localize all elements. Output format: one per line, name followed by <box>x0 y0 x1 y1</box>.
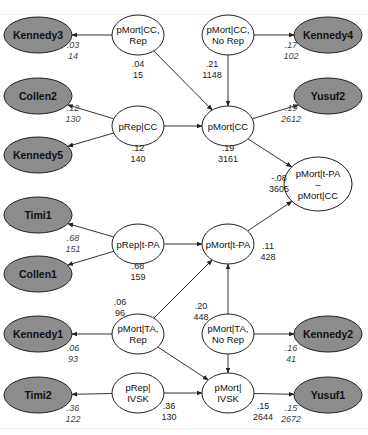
node-prep_tpa[interactable]: pRep|t-PA <box>112 224 164 264</box>
node-pmort_ta_norep[interactable]: pMort|TA,No Rep <box>202 314 254 354</box>
estimate-label-pmort_cc_rep: .0415 <box>132 59 145 80</box>
sample-size-text: 151 <box>65 244 80 254</box>
edge-layer <box>68 35 299 394</box>
node-label: Yusuf2 <box>311 90 346 102</box>
node-label: IVSK <box>127 393 149 404</box>
node-label: pRep|CC <box>119 121 158 132</box>
node-label: pMort|TA, <box>208 323 249 334</box>
sample-size-text: 448 <box>193 312 208 322</box>
sample-size-text: 3605 <box>269 184 289 194</box>
node-label: Kennedy4 <box>303 29 353 41</box>
value-text: .19 <box>285 103 298 113</box>
node-label: IVSK <box>217 393 239 404</box>
node-kennedy3[interactable]: Kennedy3 <box>4 17 72 53</box>
value-label-layer: .0415.211148.12140.193161-.083605.68159.… <box>65 40 301 424</box>
node-kennedy5[interactable]: Kennedy5 <box>4 137 72 173</box>
node-label: Rep <box>129 334 146 345</box>
node-label: Kennedy3 <box>13 29 63 41</box>
value-text: .16 <box>285 343 298 353</box>
node-label: pMort|t-PA <box>296 168 341 179</box>
node-label: Collen1 <box>19 268 57 280</box>
sample-size-text: 14 <box>68 51 78 61</box>
edge-pmort_tpa-to-pmort_diff <box>248 201 292 231</box>
sample-size-text: 93 <box>68 354 78 364</box>
node-label: pRep| <box>125 382 150 393</box>
estimate-label-pmort_ta_rep: .0696 <box>114 297 127 318</box>
estimate-label-pmort_ta_norep: .20448 <box>193 301 208 322</box>
node-label: No Rep <box>212 35 244 46</box>
sample-size-text: 122 <box>65 414 80 424</box>
sample-size-text: 130 <box>65 114 80 124</box>
node-layer: Kennedy3pMort|CC,ReppMort|CC,No RepKenne… <box>4 15 362 413</box>
value-text: .12 <box>67 103 80 113</box>
node-pmort_cc[interactable]: pMort|CC <box>202 106 254 146</box>
node-pmort_ta_rep[interactable]: pMort|TA,Rep <box>112 314 164 354</box>
node-kennedy2[interactable]: Kennedy2 <box>294 316 362 352</box>
node-label: Kennedy2 <box>303 328 353 340</box>
observation-label-timi1: .68151 <box>65 233 80 254</box>
node-label: Timi2 <box>24 389 51 401</box>
observation-label-timi2: .36122 <box>65 403 80 424</box>
value-text: .15 <box>257 401 270 411</box>
value-text: .68 <box>67 233 80 243</box>
node-timi1[interactable]: Timi1 <box>4 197 72 233</box>
value-text: .15 <box>285 403 299 413</box>
node-label: pMort| <box>215 382 242 393</box>
node-label: Kennedy1 <box>13 328 63 340</box>
node-timi2[interactable]: Timi2 <box>4 377 72 413</box>
value-text: .20 <box>195 301 208 311</box>
value-text: .17 <box>285 40 299 50</box>
estimate-label-prep_ivsk: .36130 <box>161 401 176 422</box>
node-pmort_cc_norep[interactable]: pMort|CC,No Rep <box>202 15 254 55</box>
sample-size-text: 2672 <box>280 414 301 424</box>
node-pmort_tpa[interactable]: pMort|t-PA <box>202 224 254 264</box>
estimate-label-pmort_ivsk: .152644 <box>253 401 273 422</box>
sample-size-text: 15 <box>133 70 143 80</box>
observation-label-kennedy3: .0314 <box>67 40 80 61</box>
observation-label-kennedy4: .17102 <box>283 40 298 61</box>
value-text: .04 <box>132 59 145 69</box>
sample-size-text: 1148 <box>202 70 221 80</box>
edge-prep_cc-to-kennedy5 <box>68 133 114 146</box>
sample-size-text: 96 <box>115 308 125 318</box>
sample-size-text: 130 <box>161 412 176 422</box>
node-collen2[interactable]: Collen2 <box>4 78 72 114</box>
bayesian-evidence-diagram: Kennedy3pMort|CC,ReppMort|CC,No RepKenne… <box>0 0 368 435</box>
node-label: pMort|CC, <box>116 24 159 35</box>
sample-size-text: 41 <box>286 354 296 364</box>
sample-size-text: 140 <box>130 154 145 164</box>
estimate-label-prep_tpa: .68159 <box>130 261 145 282</box>
node-prep_ivsk[interactable]: pRep|IVSK <box>112 373 164 413</box>
node-pmort_cc_rep[interactable]: pMort|CC,Rep <box>112 15 164 55</box>
node-prep_cc[interactable]: pRep|CC <box>112 106 164 146</box>
node-collen1[interactable]: Collen1 <box>4 256 72 292</box>
node-kennedy1[interactable]: Kennedy1 <box>4 316 72 352</box>
node-yusuf1[interactable]: Yusuf1 <box>294 377 362 413</box>
node-pmort_diff[interactable]: pMort|t-PA–pMort|CC <box>284 157 352 211</box>
value-text: .19 <box>222 143 235 153</box>
observation-label-yusuf1: .152672 <box>280 403 301 424</box>
sample-size-text: 102 <box>283 51 298 61</box>
node-label: Collen2 <box>19 90 57 102</box>
edge-pmort_ta_rep-to-pmort_ivsk <box>158 347 208 380</box>
edge-pmort_ivsk-to-yusuf1 <box>254 394 294 395</box>
estimate-label-prep_cc: .12140 <box>130 143 145 164</box>
sample-size-text: 2644 <box>253 412 273 422</box>
node-label: – <box>315 179 321 190</box>
estimate-label-pmort_cc_norep: .211148 <box>202 59 221 80</box>
node-pmort_ivsk[interactable]: pMort|IVSK <box>202 373 254 413</box>
edge-pmort_cc-to-pmort_diff <box>248 139 292 167</box>
node-kennedy4[interactable]: Kennedy4 <box>294 17 362 53</box>
value-text: .03 <box>67 40 80 50</box>
edge-prep_ivsk-to-timi2 <box>72 394 112 395</box>
node-yusuf2[interactable]: Yusuf2 <box>294 78 362 114</box>
sample-size-text: 428 <box>260 252 275 262</box>
observation-label-yusuf2: .192612 <box>280 103 301 124</box>
node-label: Rep <box>129 35 146 46</box>
node-label: pMort|t-PA <box>206 239 251 250</box>
edge-pmort_cc_rep-to-pmort_cc <box>154 51 213 110</box>
value-text: .36 <box>67 403 80 413</box>
sample-size-text: 159 <box>130 272 145 282</box>
value-text: .21 <box>206 59 219 69</box>
value-text: .12 <box>132 143 145 153</box>
